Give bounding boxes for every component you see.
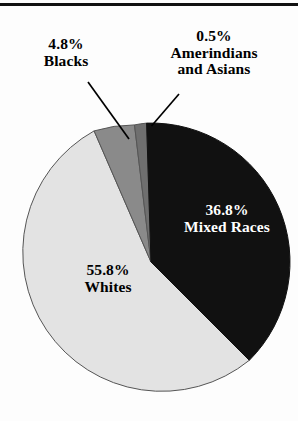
slice-name-blacks: Blacks — [18, 53, 114, 70]
pie-chart-figure: 4.8% Blacks 0.5% Amerindians and Asians … — [0, 0, 298, 421]
slice-name-mixed-races: Mixed Races — [168, 219, 286, 236]
slice-name-amerindians-asians-line2: and Asians — [150, 61, 278, 78]
slice-percent-amerindians-asians: 0.5% — [150, 28, 278, 45]
slice-percent-whites: 55.8% — [58, 262, 158, 279]
slice-label-whites: 55.8% Whites — [58, 262, 158, 295]
slice-label-amerindians-asians: 0.5% Amerindians and Asians — [150, 28, 278, 78]
slice-percent-blacks: 4.8% — [18, 36, 114, 53]
slice-label-blacks: 4.8% Blacks — [18, 36, 114, 69]
slice-name-amerindians-asians-line1: Amerindians — [150, 45, 278, 62]
slice-percent-mixed-races: 36.8% — [168, 202, 286, 219]
slice-name-whites: Whites — [58, 279, 158, 296]
slice-label-mixed-races: 36.8% Mixed Races — [168, 202, 286, 235]
leader-line-amerindians-asians — [152, 94, 180, 126]
